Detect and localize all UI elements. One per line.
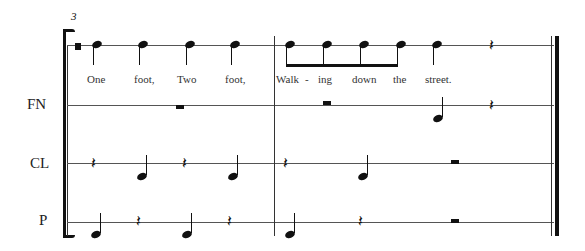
staff-label-p: P bbox=[39, 212, 47, 229]
small-square-mark bbox=[75, 43, 81, 50]
stem bbox=[397, 45, 398, 65]
staff-label-fn: FN bbox=[27, 96, 46, 113]
half-rest bbox=[323, 101, 331, 105]
half-rest bbox=[451, 219, 459, 223]
measure-number: 3 bbox=[71, 10, 77, 22]
quarter-rest: 𝄽 bbox=[182, 155, 187, 171]
quarter-rest: 𝄽 bbox=[227, 213, 232, 229]
final-barline-thin bbox=[551, 36, 552, 236]
lyric: foot, bbox=[225, 73, 245, 85]
staff-line-cl bbox=[67, 163, 554, 164]
lyric: Walk bbox=[276, 73, 299, 85]
lyric: One bbox=[87, 73, 105, 85]
quarter-rest: 𝄽 bbox=[358, 213, 363, 229]
lyric: street. bbox=[425, 73, 452, 85]
stem bbox=[237, 155, 238, 175]
barline bbox=[274, 36, 275, 236]
lyric: - bbox=[305, 73, 309, 85]
half-rest bbox=[176, 105, 184, 109]
final-barline-thick bbox=[555, 36, 559, 236]
stem bbox=[323, 45, 324, 65]
quarter-rest: 𝄽 bbox=[136, 213, 141, 229]
stem bbox=[191, 213, 192, 233]
quarter-rest: 𝄽 bbox=[283, 155, 288, 171]
beam bbox=[286, 64, 398, 67]
system-bracket-bottom bbox=[63, 235, 75, 238]
lyric: the bbox=[393, 73, 406, 85]
lyric: foot, bbox=[134, 73, 154, 85]
stem bbox=[146, 155, 147, 175]
quarter-rest: 𝄽 bbox=[91, 155, 96, 171]
quarter-rest: 𝄽 bbox=[489, 97, 494, 113]
stem bbox=[186, 45, 187, 65]
stem bbox=[139, 45, 140, 65]
half-rest bbox=[451, 160, 459, 164]
system-bracket bbox=[63, 31, 66, 237]
stem bbox=[433, 45, 434, 65]
stem bbox=[367, 155, 368, 175]
system-bracket-top bbox=[63, 29, 75, 32]
stem bbox=[360, 45, 361, 65]
quarter-rest: 𝄽 bbox=[489, 37, 494, 53]
staff-label-cl: CL bbox=[30, 155, 49, 172]
lyric: down bbox=[352, 73, 376, 85]
stem bbox=[93, 45, 94, 65]
stem bbox=[231, 45, 232, 65]
staff-line-fn bbox=[67, 105, 554, 106]
stem bbox=[286, 45, 287, 65]
stem bbox=[100, 213, 101, 233]
stem bbox=[442, 97, 443, 117]
lyric: Two bbox=[177, 73, 196, 85]
stem bbox=[294, 213, 295, 233]
lyric: ing bbox=[318, 73, 332, 85]
system-start-line bbox=[67, 45, 68, 236]
